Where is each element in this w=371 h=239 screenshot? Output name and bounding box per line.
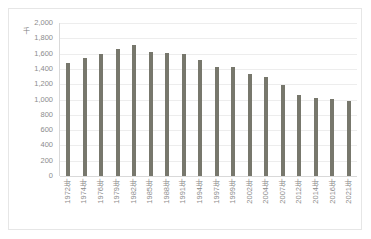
x-axis-tick-slot: 1994年 (192, 179, 209, 229)
y-axis-tick-label: 1,400 (34, 65, 53, 73)
x-axis-tick-slot: 1988年 (158, 179, 175, 229)
bar-slot (143, 23, 160, 176)
x-axis-tick-label: 1999年 (229, 179, 237, 204)
bar[interactable] (330, 99, 334, 176)
bar-slot (159, 23, 176, 176)
bar-slot (192, 23, 209, 176)
bar[interactable] (99, 54, 103, 176)
y-axis-tick-label: 400 (40, 142, 53, 150)
y-axis-tick-label: 1,800 (34, 35, 53, 43)
bar[interactable] (83, 58, 87, 176)
y-axis-tick-label: 0 (49, 172, 53, 180)
x-axis-tick-slot: 1999年 (225, 179, 242, 229)
bar[interactable] (149, 52, 153, 176)
x-axis-tick-slot: 1974年 (76, 179, 93, 229)
bar-slot (77, 23, 94, 176)
y-axis-tick-label: 600 (40, 126, 53, 134)
x-axis-tick-label: 2016年 (329, 179, 337, 204)
bar[interactable] (116, 49, 120, 176)
axis-baseline (60, 176, 357, 177)
x-axis-tick-slot: 2002年 (241, 179, 258, 229)
y-axis: 02004006008001,0001,2001,4001,6001,8002,… (9, 23, 57, 176)
bar-slot (258, 23, 275, 176)
x-axis-tick-label: 1988年 (163, 179, 171, 204)
bar-slot (110, 23, 127, 176)
x-axis-tick-slot: 1991年 (175, 179, 192, 229)
y-axis-tick-label: 1,200 (34, 80, 53, 88)
chart-container: 千 02004006008001,0001,2001,4001,6001,800… (8, 8, 362, 230)
y-axis-tick-label: 1,600 (34, 50, 53, 58)
x-axis-tick-slot: 1982年 (125, 179, 142, 229)
bar[interactable] (248, 74, 252, 176)
bar[interactable] (165, 53, 169, 176)
x-axis-tick-label: 2007年 (279, 179, 287, 204)
x-axis-tick-label: 2004年 (262, 179, 270, 204)
bar[interactable] (347, 101, 351, 176)
x-axis-tick-slot: 1976年 (92, 179, 109, 229)
x-axis-tick-label: 2021年 (345, 179, 353, 204)
x-axis-tick-slot: 1972年 (59, 179, 76, 229)
bar-slot (176, 23, 193, 176)
bar[interactable] (215, 67, 219, 176)
x-axis-tick-label: 2014年 (312, 179, 320, 204)
y-axis-tick-label: 2,000 (34, 19, 53, 27)
bar-slot (324, 23, 341, 176)
bar-series (60, 23, 357, 176)
bar-slot (225, 23, 242, 176)
x-axis: 1972年1974年1976年1979年1982年1985年1988年1991年… (59, 179, 357, 229)
bar-slot (209, 23, 226, 176)
bar[interactable] (66, 63, 70, 176)
bar-slot (308, 23, 325, 176)
plot-area (59, 23, 357, 176)
bar-slot (242, 23, 259, 176)
plot-wrapper: 02004006008001,0001,2001,4001,6001,8002,… (9, 9, 363, 231)
x-axis-tick-label: 1976年 (97, 179, 105, 204)
y-axis-tick-label: 1,000 (34, 96, 53, 104)
bar-slot (93, 23, 110, 176)
x-axis-tick-slot: 1985年 (142, 179, 159, 229)
x-axis-tick-slot: 1979年 (109, 179, 126, 229)
bar[interactable] (132, 45, 136, 176)
x-axis-tick-slot: 2007年 (274, 179, 291, 229)
bar[interactable] (182, 54, 186, 176)
x-axis-tick-label: 1997年 (213, 179, 221, 204)
bar[interactable] (281, 85, 285, 176)
bar[interactable] (198, 60, 202, 176)
bar-slot (275, 23, 292, 176)
y-axis-tick-label: 200 (40, 157, 53, 165)
bar[interactable] (297, 95, 301, 176)
x-axis-tick-slot: 2021年 (341, 179, 358, 229)
x-axis-tick-slot: 2014年 (307, 179, 324, 229)
bar[interactable] (314, 98, 318, 176)
x-axis-tick-slot: 2004年 (258, 179, 275, 229)
bar-slot (291, 23, 308, 176)
x-axis-tick-label: 1991年 (179, 179, 187, 204)
x-axis-tick-label: 1974年 (80, 179, 88, 204)
bar-slot (126, 23, 143, 176)
x-axis-tick-label: 1972年 (64, 179, 72, 204)
y-axis-tick-label: 800 (40, 111, 53, 119)
x-axis-tick-slot: 1997年 (208, 179, 225, 229)
bar-slot (60, 23, 77, 176)
x-axis-tick-label: 1979年 (113, 179, 121, 204)
x-axis-tick-label: 1985年 (146, 179, 154, 204)
x-axis-tick-label: 2002年 (246, 179, 254, 204)
x-axis-tick-label: 1982年 (130, 179, 138, 204)
x-axis-tick-label: 1994年 (196, 179, 204, 204)
bar[interactable] (231, 67, 235, 176)
bar[interactable] (264, 77, 268, 176)
x-axis-tick-label: 2012年 (295, 179, 303, 204)
x-axis-tick-slot: 2012年 (291, 179, 308, 229)
bar-slot (341, 23, 358, 176)
x-axis-tick-slot: 2016年 (324, 179, 341, 229)
